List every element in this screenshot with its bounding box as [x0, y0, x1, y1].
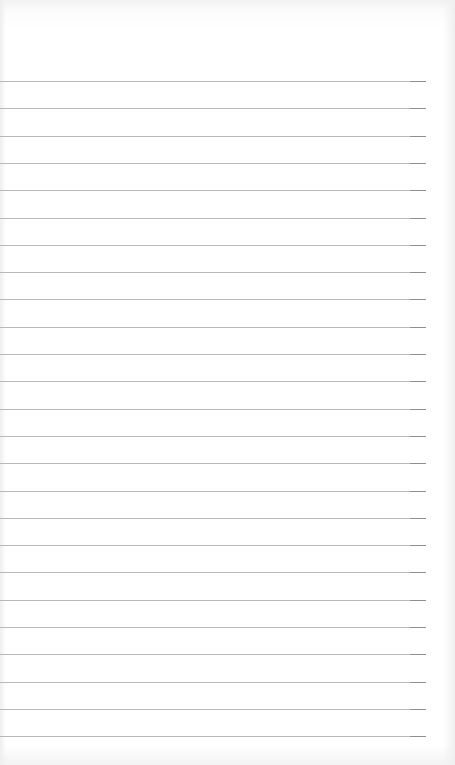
- ruled-line: [0, 245, 426, 246]
- ruled-line: [0, 299, 426, 300]
- ruled-line: [0, 709, 426, 710]
- ruled-line: [0, 190, 426, 191]
- ruled-line: [0, 108, 426, 109]
- ruled-line: [0, 491, 426, 492]
- ruled-line: [0, 163, 426, 164]
- ruled-line: [0, 218, 426, 219]
- ruled-line: [0, 600, 426, 601]
- ruled-line: [0, 736, 426, 737]
- paper-left-edge-shadow: [0, 0, 6, 765]
- ruled-line: [0, 381, 426, 382]
- ruled-line: [0, 272, 426, 273]
- ruled-line: [0, 654, 426, 655]
- ruled-line: [0, 81, 426, 82]
- ruled-line: [0, 136, 426, 137]
- ruled-line: [0, 409, 426, 410]
- lined-paper-sheet: [0, 0, 455, 765]
- ruled-line: [0, 682, 426, 683]
- ruled-line: [0, 518, 426, 519]
- ruled-line: [0, 627, 426, 628]
- paper-right-edge-shadow: [443, 0, 455, 765]
- ruled-line: [0, 327, 426, 328]
- ruled-line: [0, 436, 426, 437]
- ruled-line: [0, 572, 426, 573]
- ruled-line: [0, 354, 426, 355]
- ruled-line: [0, 463, 426, 464]
- ruled-line: [0, 545, 426, 546]
